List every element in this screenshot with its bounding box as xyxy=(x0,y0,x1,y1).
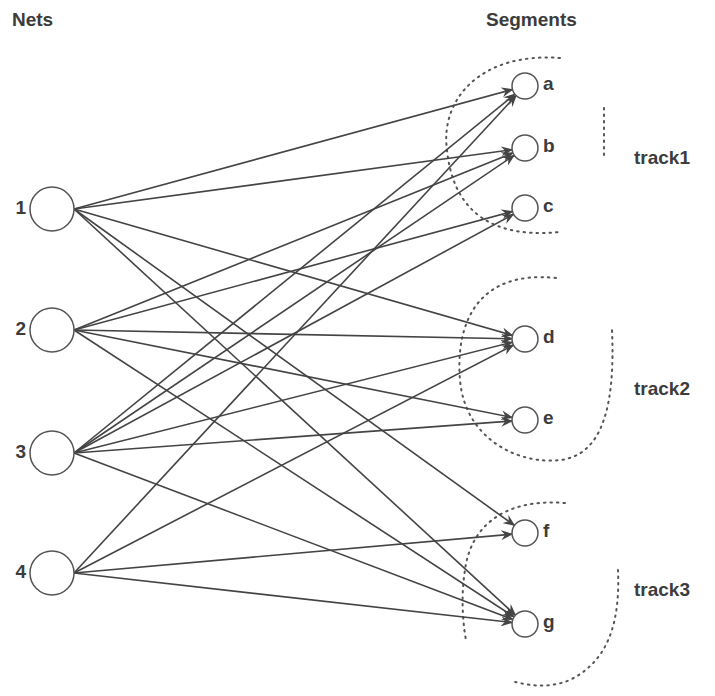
segment-label-c: c xyxy=(543,195,554,217)
edge-net3-to-a xyxy=(74,94,515,453)
edge-net4-to-d xyxy=(74,345,513,573)
segment-label-e: e xyxy=(543,407,554,429)
segment-node-e xyxy=(512,407,538,433)
track-label-track3: track3 xyxy=(634,579,690,601)
segment-label-g: g xyxy=(543,611,555,633)
segment-node-c xyxy=(512,195,538,221)
track-label-track2: track2 xyxy=(634,378,690,400)
segment-node-d xyxy=(512,326,538,352)
nets-header: Nets xyxy=(12,9,53,31)
edge-net2-to-c xyxy=(74,211,512,330)
segment-node-g xyxy=(512,611,538,637)
segment-label-a: a xyxy=(543,73,554,95)
net-label-2: 2 xyxy=(10,318,26,340)
bipartite-net-segment-diagram: Nets Segments 1234abcdefgtrack1track2tra… xyxy=(0,0,715,696)
edge-net4-to-a xyxy=(74,96,516,573)
segments-header: Segments xyxy=(486,9,577,31)
edge-net3-to-c xyxy=(74,214,514,453)
segment-label-f: f xyxy=(543,520,549,542)
segment-node-f xyxy=(512,520,538,546)
edge-net1-to-d xyxy=(74,209,513,335)
segment-node-a xyxy=(512,73,538,99)
segment-node-b xyxy=(512,135,538,161)
net-label-1: 1 xyxy=(10,197,26,219)
edge-net4-to-g xyxy=(74,573,512,623)
diagram-canvas xyxy=(0,0,715,696)
net-label-3: 3 xyxy=(10,441,26,463)
edge-net2-to-g xyxy=(74,330,514,617)
track-label-track1: track1 xyxy=(634,147,690,169)
net-node-2 xyxy=(30,308,74,352)
net-label-4: 4 xyxy=(10,561,26,583)
net-node-3 xyxy=(30,431,74,475)
segment-label-b: b xyxy=(543,135,555,157)
edge-net4-to-f xyxy=(74,534,512,573)
segment-label-d: d xyxy=(543,326,555,348)
net-node-1 xyxy=(30,187,74,231)
track2-boundary xyxy=(459,277,612,460)
net-node-4 xyxy=(30,551,74,595)
